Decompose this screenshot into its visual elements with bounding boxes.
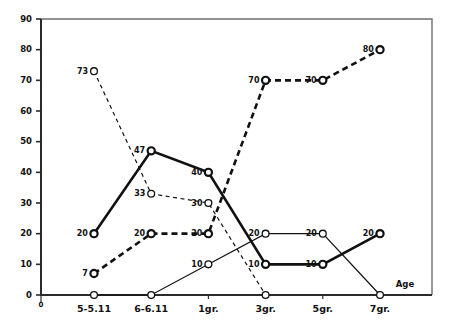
data-point[interactable] <box>90 270 97 277</box>
data-point[interactable] <box>262 230 269 237</box>
y-tick-label: 80 <box>20 44 32 54</box>
data-point[interactable] <box>90 230 97 237</box>
data-point[interactable] <box>205 261 212 268</box>
data-point[interactable] <box>319 77 326 84</box>
data-point-label: 70 <box>248 76 260 85</box>
data-point-label: 47 <box>134 146 145 155</box>
data-point[interactable] <box>91 68 98 75</box>
y-tick-label: 60 <box>20 106 32 116</box>
data-point[interactable] <box>148 147 155 154</box>
data-point-label: 7 <box>82 269 88 278</box>
data-point-label: 20 <box>306 229 318 238</box>
data-point[interactable] <box>376 46 383 53</box>
x-tick-label-4: 5gr. <box>313 303 333 314</box>
y-tick-label: 70 <box>20 75 32 85</box>
y-tick-label: 50 <box>20 136 32 146</box>
data-point[interactable] <box>262 292 269 299</box>
data-point[interactable] <box>148 190 155 197</box>
data-point-label: 30 <box>191 199 203 208</box>
data-point-label: 20 <box>249 229 261 238</box>
origin-label: 0 <box>39 301 44 309</box>
data-point[interactable] <box>262 77 269 84</box>
y-tick-label: 20 <box>20 228 32 238</box>
chart-container: 0102030405060708090 5-5.116-6.111gr.3gr.… <box>0 0 455 330</box>
data-point[interactable] <box>205 200 212 207</box>
data-point-label: 10 <box>248 260 260 269</box>
data-point[interactable] <box>148 292 155 299</box>
x-tick-label-5: 7gr. <box>370 303 390 314</box>
x-tick-label-0: 5-5.11 <box>77 303 111 314</box>
data-point-label: 10 <box>191 260 203 269</box>
data-point[interactable] <box>148 230 155 237</box>
data-point[interactable] <box>319 261 326 268</box>
y-tick-label: 30 <box>20 198 32 208</box>
data-point[interactable] <box>377 292 384 299</box>
data-point[interactable] <box>205 230 212 237</box>
y-tick-label: 40 <box>20 167 32 177</box>
x-tick-label-1: 6-6.11 <box>134 303 168 314</box>
x-tick-label-3: 3gr. <box>255 303 275 314</box>
data-point-label: 20 <box>77 229 89 238</box>
data-point-label: 40 <box>191 168 203 177</box>
data-point[interactable] <box>319 230 326 237</box>
data-point-label: 70 <box>306 76 318 85</box>
data-point-label: 10 <box>306 260 318 269</box>
data-point-label: 20 <box>191 229 203 238</box>
data-point[interactable] <box>376 230 383 237</box>
data-point[interactable] <box>262 261 269 268</box>
data-point-label: 20 <box>363 229 375 238</box>
x-tick-label-2: 1gr. <box>198 303 218 314</box>
data-point[interactable] <box>205 169 212 176</box>
data-point-label: 20 <box>134 229 146 238</box>
y-tick-label: 90 <box>20 14 32 24</box>
data-point[interactable] <box>91 292 98 299</box>
data-point-label: 33 <box>134 189 145 198</box>
y-tick-label: 0 <box>26 290 32 300</box>
y-tick-label: 10 <box>20 259 32 269</box>
x-axis-title: Age <box>396 279 415 289</box>
data-point-label: 73 <box>77 67 88 76</box>
data-point-label: 80 <box>363 45 375 54</box>
line-chart: 0102030405060708090 5-5.116-6.111gr.3gr.… <box>0 0 455 330</box>
chart-background <box>0 0 455 330</box>
